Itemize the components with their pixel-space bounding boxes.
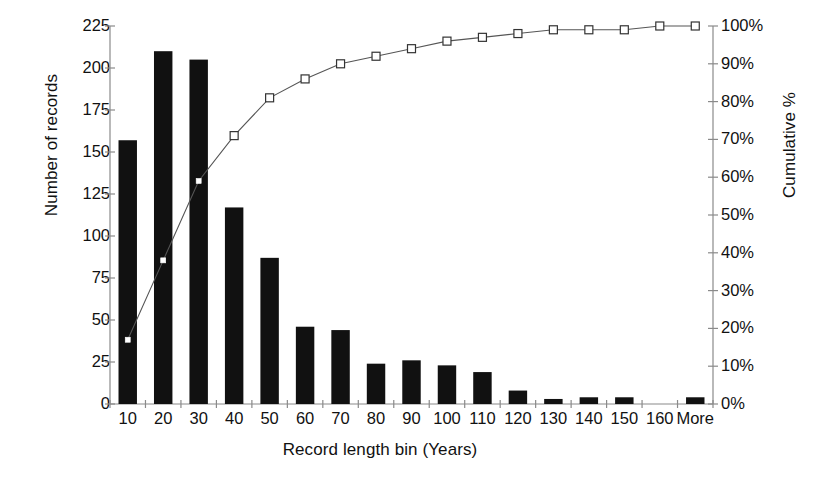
bar (260, 258, 278, 404)
cumulative-marker (443, 37, 451, 45)
pareto-chart: Number of records Cumulative % Record le… (0, 0, 834, 479)
bar (438, 365, 456, 404)
bar (119, 140, 137, 404)
cumulative-marker (196, 178, 201, 183)
cumulative-marker (372, 52, 380, 60)
cumulative-marker (478, 33, 486, 41)
cumulative-marker (514, 30, 522, 38)
bar (225, 207, 243, 404)
cumulative-marker (161, 258, 166, 263)
cumulative-marker (656, 22, 664, 30)
plot-area (0, 0, 834, 479)
bar (296, 327, 314, 404)
bar (331, 330, 349, 404)
bars-group (119, 51, 705, 404)
cumulative-line-group (128, 26, 696, 340)
cumulative-marker (266, 94, 274, 102)
bar (189, 60, 207, 404)
bar (615, 397, 633, 404)
bar (154, 51, 172, 404)
cumulative-markers-group (125, 22, 699, 342)
cumulative-marker (337, 60, 345, 68)
cumulative-marker (585, 26, 593, 34)
bar (686, 397, 704, 404)
bar (544, 399, 562, 404)
cumulative-marker (549, 26, 557, 34)
cumulative-marker (125, 337, 130, 342)
bar (367, 364, 385, 404)
cumulative-line (128, 26, 696, 340)
bar (473, 372, 491, 404)
cumulative-marker (301, 75, 309, 83)
bar (509, 391, 527, 404)
cumulative-marker (408, 45, 416, 53)
cumulative-marker (620, 26, 628, 34)
cumulative-marker (691, 22, 699, 30)
cumulative-marker (230, 132, 238, 140)
bar (580, 397, 598, 404)
bar (402, 360, 420, 404)
